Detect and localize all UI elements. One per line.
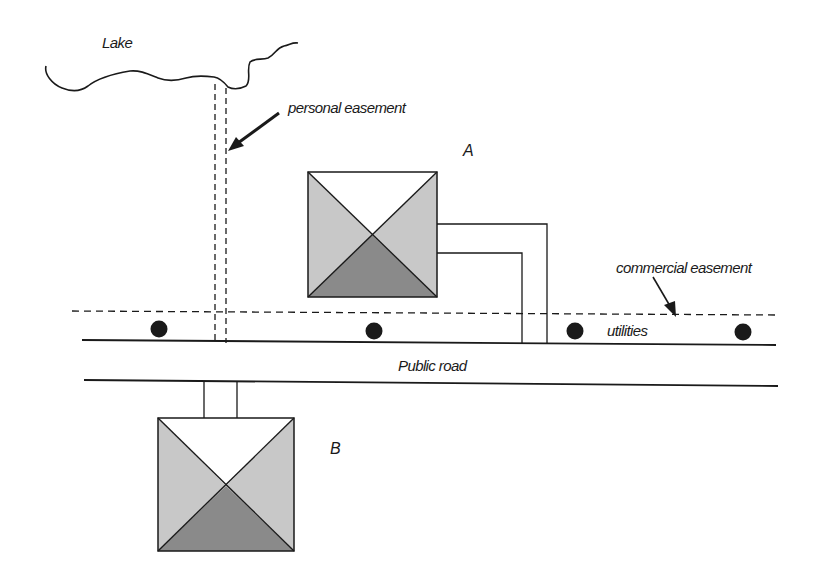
house-a-building [308,172,437,297]
utility-pole-1 [151,321,168,338]
utility-pole-2 [366,323,383,340]
house-b-label: B [330,440,341,457]
road-edge-bottom [84,380,778,386]
house-b-building [158,418,294,551]
house-a-driveway-inner [437,253,522,343]
utility-pole-3 [567,323,584,340]
personal-easement-label: personal easement [287,99,407,116]
public-road-label: Public road [398,357,468,374]
easement-diagram: Lake personal easement A commercial ease… [0,0,822,577]
commercial-easement-label: commercial easement [616,259,753,276]
lake-label: Lake [102,34,132,51]
house-a-label: A [462,142,473,159]
utility-pole-4 [735,324,752,341]
commercial-easement-arrow [653,277,670,306]
lake-shoreline [46,43,298,91]
utilities-label: utilities [607,322,649,339]
house-a-driveway-outer [437,224,547,343]
road-edge-top [82,340,776,345]
personal-easement-arrow [238,113,279,143]
